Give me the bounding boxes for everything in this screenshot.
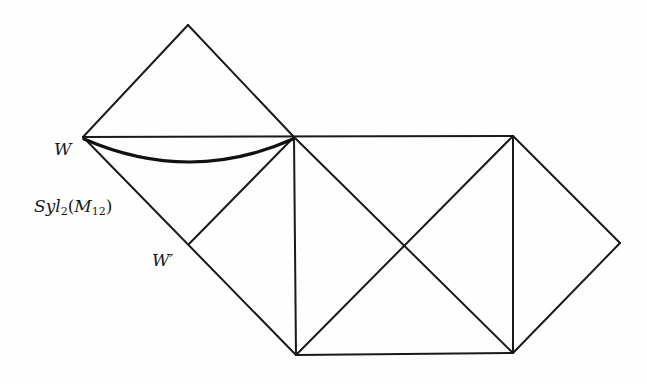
- edge-topright-rightapex: [513, 136, 620, 243]
- m-text: M: [74, 196, 91, 216]
- label-w-prime: W′: [152, 250, 173, 270]
- paren-close: ): [106, 196, 113, 216]
- edge-top-junction: [188, 25, 294, 137]
- diagram-canvas: W Syl2(M12) W′: [0, 0, 647, 384]
- syl-text: Syl: [34, 196, 61, 216]
- label-w-prime-text: W′: [152, 250, 173, 270]
- label-w: W: [54, 139, 71, 159]
- m-sub: 12: [92, 205, 106, 218]
- syl-sub: 2: [61, 205, 68, 218]
- edge-w-bottomleft: [83, 137, 296, 355]
- arc-w-junction: [84, 139, 293, 162]
- edge-square-left: [294, 137, 296, 355]
- label-syl2-m12: Syl2(M12): [34, 196, 112, 218]
- edge-rightapex-bottomright: [513, 243, 620, 353]
- edge-w-topright: [83, 136, 513, 137]
- label-w-text: W: [54, 139, 71, 159]
- edge-w-top: [83, 25, 188, 137]
- edge-junction-wprime: [189, 137, 294, 244]
- diagram-lines: [0, 0, 647, 384]
- edge-square-bottom: [296, 353, 513, 355]
